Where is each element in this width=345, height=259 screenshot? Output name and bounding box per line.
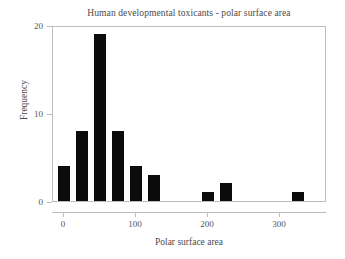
bar <box>292 192 305 201</box>
bar <box>58 166 71 201</box>
x-tick-mark <box>207 212 208 217</box>
y-tick-label: 20 <box>3 22 43 31</box>
bar <box>130 166 143 201</box>
bar <box>76 131 89 201</box>
bar <box>220 183 233 201</box>
bar <box>202 192 215 201</box>
bar <box>148 175 161 201</box>
x-axis-line <box>52 212 326 213</box>
y-tick-mark <box>47 202 52 203</box>
x-tick-label: 300 <box>259 220 299 229</box>
page-title: Human developmental toxicants - polar su… <box>52 8 326 18</box>
bar <box>94 34 107 201</box>
y-tick-label: 0 <box>3 198 43 207</box>
x-axis-label: Polar surface area <box>52 237 326 247</box>
plot-area <box>52 26 326 202</box>
x-tick-mark <box>279 212 280 217</box>
chart-figure: Human developmental toxicants - polar su… <box>0 0 345 259</box>
x-tick-label: 100 <box>115 220 155 229</box>
bars-layer <box>53 27 325 201</box>
x-tick-mark <box>63 212 64 217</box>
y-tick-label: 10 <box>3 110 43 119</box>
x-tick-label: 200 <box>187 220 227 229</box>
bar <box>112 131 125 201</box>
x-tick-mark <box>135 212 136 217</box>
y-axis-label: Frequency <box>19 60 29 140</box>
x-tick-label: 0 <box>43 220 83 229</box>
